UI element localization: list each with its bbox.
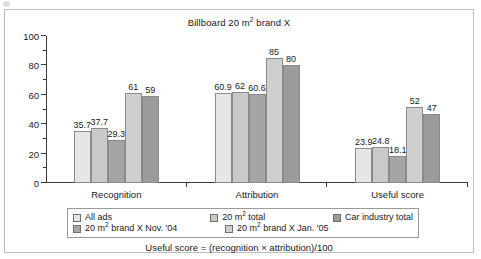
legend-label-20m2-brandx-nov04: 20 m2 brand X Nov. '04 — [85, 223, 177, 233]
x-tick — [467, 183, 468, 187]
bar-value-label: 85 — [269, 47, 279, 57]
legend-swatch-20m2-brandx-jan05 — [225, 225, 233, 233]
y-axis-line — [46, 36, 47, 183]
bar-value-label: 29.3 — [108, 129, 126, 139]
bar[interactable] — [266, 58, 283, 183]
y-minor-tick-70 — [43, 79, 46, 80]
bar-wrapper: 85 — [266, 36, 283, 183]
bar-value-label: 18.1 — [389, 145, 407, 155]
bar[interactable] — [423, 114, 440, 183]
bar[interactable] — [215, 93, 232, 183]
bar-wrapper: 60.6 — [249, 36, 266, 183]
bar[interactable] — [108, 140, 125, 183]
bar[interactable] — [406, 107, 423, 183]
legend-item-20m2-brandx-jan05[interactable]: 20 m2 brand X Jan. '05 — [225, 223, 361, 233]
bar-wrapper: 61 — [125, 36, 142, 183]
bar-wrapper: 29.3 — [108, 36, 125, 183]
bar-value-label: 60.6 — [248, 83, 266, 93]
y-tick-label-0: 0 — [34, 178, 39, 189]
chart-title-text-after: brand X — [254, 17, 291, 28]
y-minor-tick-30 — [43, 138, 46, 139]
y-tick-label-100: 100 — [23, 31, 39, 42]
legend-swatch-car-industry-total — [333, 214, 341, 222]
y-tick-0 — [41, 182, 46, 183]
bar-wrapper: 52 — [406, 36, 423, 183]
figure-frame: Billboard 20 m2 brand X 020406080100 35.… — [4, 9, 474, 253]
y-minor-tick-10 — [43, 167, 46, 168]
y-tick-40 — [41, 123, 46, 124]
bar[interactable] — [74, 131, 91, 183]
bar-wrapper: 18.1 — [389, 36, 406, 183]
y-tick-label-60: 60 — [28, 89, 39, 100]
legend-swatch-20m2-total — [210, 214, 218, 222]
bar-wrapper: 35.7 — [74, 36, 91, 183]
bar[interactable] — [283, 65, 300, 183]
x-tick — [186, 183, 187, 187]
x-axis-category-label: Useful score — [371, 189, 424, 200]
bar-group-useful-score: 23.924.818.15247Useful score — [355, 36, 440, 183]
bar-group-recognition: 35.737.729.36159Recognition — [74, 36, 159, 183]
bar-value-label: 24.8 — [372, 136, 390, 146]
bar[interactable] — [372, 147, 389, 183]
bar-group-attribution: 60.96260.68580Attribution — [215, 36, 300, 183]
bar-value-label: 62 — [235, 81, 245, 91]
bar-wrapper: 24.8 — [372, 36, 389, 183]
y-tick-60 — [41, 94, 46, 95]
legend-swatch-all-ads — [73, 214, 81, 222]
bar-value-label: 60.9 — [214, 82, 232, 92]
bar[interactable] — [389, 156, 406, 183]
y-tick-label-40: 40 — [28, 119, 39, 130]
bar-wrapper: 23.9 — [355, 36, 372, 183]
bar-wrapper: 80 — [283, 36, 300, 183]
legend-row: All ads 20 m2 total Car industry total — [73, 212, 413, 222]
y-minor-tick-50 — [43, 109, 46, 110]
bar-value-label: 23.9 — [355, 137, 373, 147]
legend-item-20m2-brandx-nov04[interactable]: 20 m2 brand X Nov. '04 — [73, 223, 225, 233]
legend-row: 20 m2 brand X Nov. '04 20 m2 brand X Jan… — [73, 223, 413, 233]
bar[interactable] — [232, 92, 249, 183]
bar[interactable] — [355, 148, 372, 183]
bar-wrapper: 37.7 — [91, 36, 108, 183]
plot-area: 020406080100 35.737.729.36159Recognition… — [46, 36, 468, 183]
bar-value-label: 61 — [128, 82, 138, 92]
bar-value-label: 59 — [145, 85, 155, 95]
bar-value-label: 80 — [286, 54, 296, 64]
bar[interactable] — [125, 93, 142, 183]
bar-wrapper: 60.9 — [215, 36, 232, 183]
chart-legend: All ads 20 m2 total Car industry total 2… — [67, 208, 419, 238]
legend-item-car-industry-total[interactable]: Car industry total — [333, 212, 413, 222]
scan-artifact-speck — [3, 1, 10, 7]
bar[interactable] — [249, 94, 266, 183]
y-tick-80 — [41, 64, 46, 65]
x-axis-category-label: Recognition — [91, 189, 141, 200]
bar-value-label: 37.7 — [91, 117, 109, 127]
legend-label-car-industry-total: Car industry total — [345, 212, 413, 222]
y-tick-label-20: 20 — [28, 148, 39, 159]
chart-title: Billboard 20 m2 brand X — [5, 17, 473, 28]
bar-value-label: 35.7 — [74, 120, 92, 130]
x-tick — [326, 183, 327, 187]
legend-label-20m2-brandx-jan05: 20 m2 brand X Jan. '05 — [237, 223, 328, 233]
bar[interactable] — [142, 96, 159, 183]
y-tick-20 — [41, 153, 46, 154]
chart-title-text-before: Billboard 20 m — [188, 17, 250, 28]
legend-item-20m2-total[interactable]: 20 m2 total — [210, 212, 333, 222]
bar[interactable] — [91, 128, 108, 183]
figure-caption: Useful score = (recognition × attributio… — [5, 242, 473, 253]
bar-value-label: 52 — [410, 96, 420, 106]
bar-value-label: 47 — [427, 103, 437, 113]
y-tick-100 — [41, 35, 46, 36]
legend-item-all-ads[interactable]: All ads — [73, 212, 210, 222]
y-minor-tick-90 — [43, 50, 46, 51]
legend-swatch-20m2-brandx-nov04 — [73, 225, 81, 233]
bar-wrapper: 62 — [232, 36, 249, 183]
bar-wrapper: 47 — [423, 36, 440, 183]
bar-wrapper: 59 — [142, 36, 159, 183]
x-axis-category-label: Attribution — [236, 189, 279, 200]
y-tick-label-80: 80 — [28, 60, 39, 71]
